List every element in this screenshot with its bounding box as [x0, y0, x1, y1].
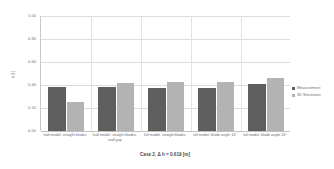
x-axis-title: Case 2, Δ h = 0.619 [m]	[40, 152, 290, 157]
bar-measurement	[198, 88, 216, 131]
bar-measurement	[148, 88, 166, 131]
y-tick-label: 0.60	[16, 59, 36, 64]
bar-measurement	[48, 87, 66, 131]
bar-chart-figure: η [-] 1.000.800.600.400.200.00 half-mode…	[0, 0, 334, 169]
y-tick-label: 0.40	[16, 82, 36, 87]
chart-legend: Measurement3D Simulation	[292, 85, 334, 99]
bars-layer	[41, 16, 290, 131]
bar-group	[141, 16, 191, 131]
x-tick-label: full model, blade angle 20°	[242, 133, 288, 138]
y-axis-tick-labels: 1.000.800.600.400.200.00	[18, 12, 38, 136]
legend-item: 3D Simulation	[292, 92, 334, 99]
y-tick-label: 0.80	[16, 36, 36, 41]
plot-area	[40, 16, 290, 131]
x-tick-label: half-model, straight blades, wall gap	[92, 133, 138, 142]
y-tick-label: 1.00	[16, 13, 36, 18]
legend-swatch-icon	[292, 87, 295, 90]
x-axis-tick-labels: half-model, straight bladeshalf-model, s…	[40, 133, 290, 149]
y-axis-title-text: η [-]	[11, 70, 16, 77]
x-tick-label: full model, blade angle 10°	[192, 133, 238, 138]
bar-simulation	[267, 78, 285, 131]
bar-group	[41, 16, 91, 131]
bar-simulation	[217, 82, 235, 131]
axis-baseline	[41, 131, 290, 132]
y-tick-label: 0.00	[16, 128, 36, 133]
legend-swatch-icon	[292, 94, 295, 97]
legend-item: Measurement	[292, 85, 334, 92]
bar-simulation	[67, 102, 85, 131]
bar-measurement	[98, 87, 116, 131]
bar-group	[91, 16, 141, 131]
x-tick-label: half-model, straight blades	[42, 133, 88, 138]
bar-simulation	[117, 83, 135, 131]
bar-group	[191, 16, 241, 131]
bar-simulation	[167, 82, 185, 131]
x-tick-label: full model, straight blades	[142, 133, 188, 138]
y-tick-label: 0.20	[16, 105, 36, 110]
bar-group	[241, 16, 291, 131]
legend-label: Measurement	[297, 86, 320, 90]
legend-label: 3D Simulation	[297, 93, 321, 97]
bar-measurement	[248, 84, 266, 131]
